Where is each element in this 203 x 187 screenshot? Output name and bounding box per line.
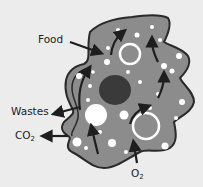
label-food: Food: [38, 34, 63, 45]
vacuole: [161, 63, 167, 69]
food-vacuole: [133, 113, 159, 139]
vacuole: [108, 139, 116, 147]
vacuole: [176, 53, 182, 59]
vacuole: [148, 106, 152, 110]
vacuole: [179, 99, 185, 105]
contractile-vacuole: [85, 104, 107, 126]
label-o2: O2: [131, 168, 144, 181]
vacuole: [158, 38, 162, 42]
vacuole: [162, 143, 169, 150]
food-vacuole: [120, 44, 140, 64]
vacuole: [124, 150, 128, 154]
vacuole: [86, 98, 90, 102]
vacuole: [88, 84, 92, 88]
o2-subscript: 2: [139, 173, 143, 181]
vacuole: [135, 33, 140, 38]
vacuole: [126, 70, 130, 74]
amoeba-diagram: [0, 0, 203, 187]
vacuole: [91, 70, 95, 74]
vacuole: [106, 46, 110, 50]
vacuole: [150, 25, 154, 29]
vacuole: [116, 28, 120, 32]
co2-text: CO: [15, 129, 31, 141]
vacuole: [174, 116, 178, 120]
vacuole: [104, 59, 110, 65]
co2-subscript: 2: [31, 135, 35, 143]
vacuole: [84, 146, 88, 150]
vacuole: [76, 73, 82, 79]
vacuole: [73, 138, 82, 147]
vacuole: [120, 111, 129, 120]
vacuole: [98, 130, 102, 134]
nucleus: [99, 75, 131, 105]
vacuole: [138, 80, 142, 84]
label-wastes: Wastes: [11, 106, 49, 117]
vacuole: [170, 69, 175, 74]
label-co2: CO2: [15, 130, 35, 143]
